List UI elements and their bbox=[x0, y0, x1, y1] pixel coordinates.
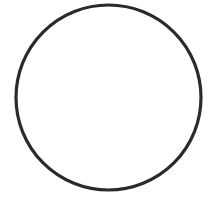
diagram-canvas bbox=[0, 0, 217, 211]
circle-outline bbox=[16, 5, 201, 190]
